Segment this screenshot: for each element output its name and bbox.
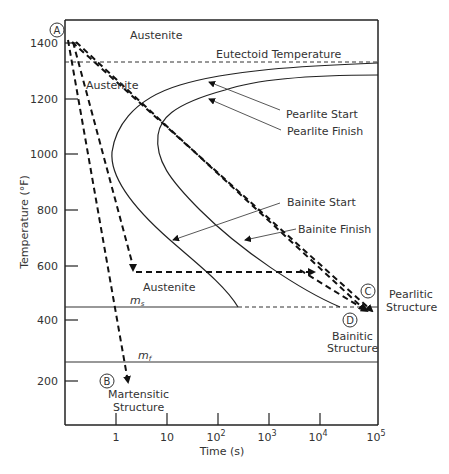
x-tick-1: 1 bbox=[113, 431, 120, 444]
martensitic-label-1: Martensitic bbox=[108, 388, 169, 401]
bainite-finish-leader bbox=[245, 229, 296, 240]
pearlitic-label-2: Structure bbox=[386, 301, 437, 314]
pearlite-finish-leader bbox=[209, 99, 281, 130]
pearlitic-label-1: Pearlitic bbox=[389, 288, 433, 301]
ttt-diagram: 1400 1200 1000 800 600 400 200 Temperatu… bbox=[0, 0, 449, 474]
svg-text:B: B bbox=[104, 376, 111, 387]
point-b-marker: B bbox=[100, 374, 114, 388]
x-axis-tick-labels: 1 10 102 103 104 105 bbox=[113, 429, 386, 444]
austenite-label-mid: Austenite bbox=[86, 79, 139, 92]
svg-text:A: A bbox=[54, 25, 61, 36]
bainite-start-label: Bainite Start bbox=[287, 196, 357, 209]
martensitic-label-2: Structure bbox=[113, 401, 164, 414]
point-d-marker: D bbox=[343, 313, 357, 327]
bainite-finish-label: Bainite Finish bbox=[298, 223, 371, 236]
x-tick-100: 102 bbox=[206, 429, 225, 444]
x-tick-100000: 105 bbox=[366, 429, 385, 444]
x-tick-1000: 103 bbox=[257, 429, 276, 444]
y-tick-1400: 1400 bbox=[30, 37, 58, 50]
point-c-marker: C bbox=[361, 284, 375, 298]
y-tick-400: 400 bbox=[37, 314, 58, 327]
point-a-marker: A bbox=[50, 23, 64, 37]
y-axis-tick-labels: 1400 1200 1000 800 600 400 200 bbox=[30, 37, 58, 388]
ms-label: ms bbox=[130, 294, 145, 308]
austenite-label-low: Austenite bbox=[143, 281, 196, 294]
y-axis-ticks bbox=[65, 43, 78, 381]
y-tick-600: 600 bbox=[37, 260, 58, 273]
y-tick-1200: 1200 bbox=[30, 93, 58, 106]
austenite-label-top: Austenite bbox=[130, 29, 183, 42]
y-tick-1000: 1000 bbox=[30, 148, 58, 161]
pearlite-start-label: Pearlite Start bbox=[286, 108, 359, 121]
y-tick-200: 200 bbox=[37, 375, 58, 388]
eutectoid-label: Eutectoid Temperature bbox=[216, 48, 342, 61]
mf-label: mf bbox=[138, 349, 153, 363]
path-a-isothermal bbox=[73, 42, 133, 270]
x-tick-10: 10 bbox=[160, 431, 174, 444]
x-axis-label: Time (s) bbox=[199, 445, 245, 458]
y-tick-800: 800 bbox=[37, 204, 58, 217]
y-axis-label: Temperature (°F) bbox=[18, 175, 31, 270]
x-axis-ticks bbox=[116, 413, 320, 425]
bainitic-label-2: Structure bbox=[327, 342, 378, 355]
pearlite-start-curve bbox=[112, 63, 378, 307]
x-tick-10000: 104 bbox=[308, 429, 327, 444]
svg-text:C: C bbox=[365, 286, 372, 297]
svg-text:D: D bbox=[346, 315, 354, 326]
pearlite-start-leader bbox=[209, 82, 280, 110]
pearlite-finish-label: Pearlite Finish bbox=[287, 125, 363, 138]
